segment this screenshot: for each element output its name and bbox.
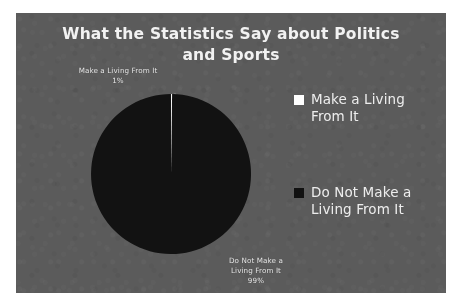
chart-title-line-2: and Sports — [182, 46, 279, 64]
data-label-do-not-make-a-living-from-it: Do Not Make a Living From It 99% — [206, 256, 306, 286]
legend-item-2-line-2: Living From It — [311, 201, 404, 217]
screenshot-root: What the Statistics Say about Politics a… — [0, 0, 462, 308]
slide-canvas: What the Statistics Say about Politics a… — [16, 13, 446, 293]
data-label-slice2-name-line1: Do Not Make a — [229, 256, 283, 265]
data-label-slice1-percent: 1% — [112, 76, 124, 85]
legend-item-make-a-living-from-it[interactable]: Make a Living From It — [294, 91, 442, 126]
data-label-slice2-name-line2: Living From It — [231, 266, 281, 275]
data-label-slice1-name: Make a Living From It — [79, 66, 158, 75]
legend-item-label: Do Not Make a Living From It — [311, 184, 411, 219]
chart-title-line-1: What the Statistics Say about Politics — [62, 25, 399, 43]
legend-item-1-line-1: Make a Living — [311, 91, 405, 107]
legend-item-1-line-2: From It — [311, 108, 359, 124]
legend-item-do-not-make-a-living-from-it[interactable]: Do Not Make a Living From It — [294, 184, 442, 219]
chart-title: What the Statistics Say about Politics a… — [36, 24, 426, 65]
chart-legend: Make a Living From It Do Not Make a Livi… — [294, 91, 442, 218]
square-swatch-icon — [294, 188, 304, 198]
square-swatch-icon — [294, 95, 304, 105]
pie-chart[interactable] — [90, 93, 252, 255]
data-label-make-a-living-from-it: Make a Living From It 1% — [62, 66, 174, 86]
legend-item-label: Make a Living From It — [311, 91, 405, 126]
pie-chart-svg — [90, 93, 252, 255]
legend-item-2-line-1: Do Not Make a — [311, 184, 411, 200]
data-label-slice2-percent: 99% — [248, 276, 264, 285]
